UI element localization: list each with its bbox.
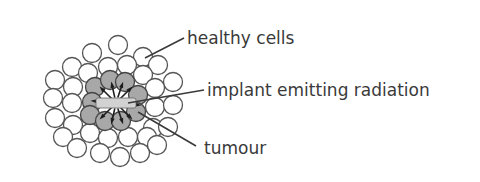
label-healthy-cells: healthy cells — [187, 28, 295, 48]
healthy-cell — [68, 139, 87, 158]
healthy-cell — [146, 79, 165, 98]
healthy-cell — [164, 96, 183, 115]
healthy-cell — [91, 144, 110, 163]
healthy-cell — [83, 44, 102, 63]
healthy-cell — [148, 136, 167, 155]
healthy-cell — [46, 71, 65, 90]
healthy-cell — [63, 94, 82, 113]
healthy-cell — [46, 109, 65, 128]
radiotherapy-implant-diagram: healthy cells implant emitting radiation… — [0, 0, 480, 182]
healthy-cell — [164, 73, 183, 92]
leader-line — [145, 38, 184, 58]
label-tumour: tumour — [204, 138, 266, 158]
label-implant-emitting-radiation: implant emitting radiation — [207, 80, 430, 100]
healthy-cell — [131, 144, 150, 163]
healthy-cell — [111, 148, 130, 167]
healthy-cell — [109, 36, 128, 55]
healthy-cell — [146, 98, 165, 117]
healthy-cell — [44, 89, 63, 108]
